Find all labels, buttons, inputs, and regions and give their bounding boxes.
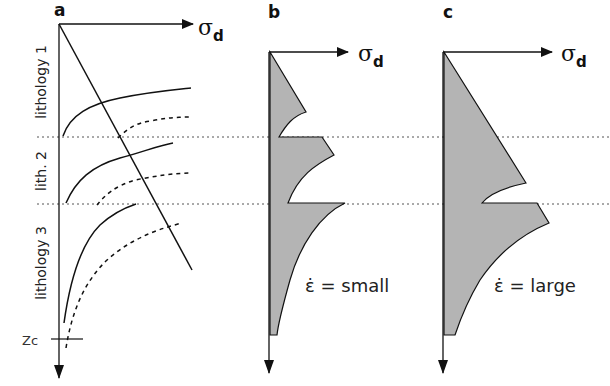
lithology-1-label: lithology 1 bbox=[33, 45, 49, 119]
panel-c: c σd ε̇ = large bbox=[443, 2, 587, 373]
ductile-curve-lith2 bbox=[66, 143, 173, 203]
panel-a-label: a bbox=[54, 0, 65, 20]
stress-depth-diagram: a σd Zc lithology 1 lith. 2 lithology 3 … bbox=[0, 0, 610, 386]
brittle-strength-line bbox=[59, 24, 192, 270]
strain-rate-large-label: ε̇ = large bbox=[494, 275, 576, 296]
ductile-curve-lith3 bbox=[64, 204, 136, 323]
panel-a: a σd Zc lithology 1 lith. 2 lithology 3 bbox=[22, 0, 224, 378]
strain-rate-small-label: ε̇ = small bbox=[305, 275, 389, 296]
ductile-curve-dashed-lith3 bbox=[66, 223, 182, 348]
ductile-curve-dashed-lith1 bbox=[118, 117, 192, 138]
ductile-curve-dashed-lith2 bbox=[97, 173, 192, 205]
lithology-2-label: lith. 2 bbox=[33, 151, 49, 191]
sigma-label-b: σd bbox=[358, 41, 384, 71]
zc-label: Zc bbox=[22, 333, 38, 348]
sigma-label-c: σd bbox=[561, 41, 587, 71]
panel-b: b σd ε̇ = small bbox=[268, 2, 389, 373]
lithology-3-label: lithology 3 bbox=[33, 226, 49, 300]
ductile-curve-lith1 bbox=[63, 88, 191, 136]
sigma-label-a: σd bbox=[198, 15, 224, 45]
panel-b-label: b bbox=[268, 2, 280, 22]
panel-c-label: c bbox=[443, 2, 453, 22]
